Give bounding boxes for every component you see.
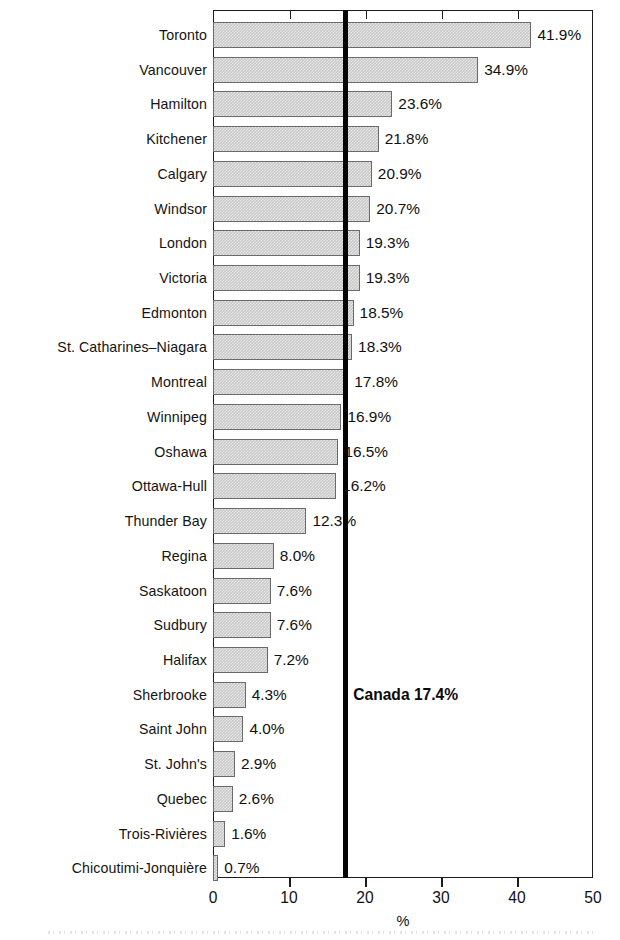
x-axis-tick (517, 878, 519, 887)
bar-value-label: 1.6% (231, 826, 266, 841)
x-axis-tick (289, 878, 291, 887)
bar (213, 334, 352, 360)
category-label: Winnipeg (0, 410, 207, 424)
bar-value-label: 8.0% (280, 548, 315, 563)
category-label: Victoria (0, 271, 207, 285)
category-label: Edmonton (0, 306, 207, 320)
x-axis-tick (365, 878, 367, 887)
category-label: St. John's (0, 757, 207, 771)
bar-value-label: 4.0% (249, 722, 284, 737)
bar (213, 126, 379, 152)
bar (213, 786, 233, 812)
bar-value-label: 2.6% (239, 791, 274, 806)
bar-row: 20.9% (213, 161, 593, 187)
canada-reference-label: Canada 17.4% (353, 687, 458, 703)
bar-row: 21.8% (213, 126, 593, 152)
category-label: Halifax (0, 653, 207, 667)
bar-value-label: 18.5% (360, 305, 404, 320)
category-label: Saint John (0, 722, 207, 736)
bar-value-label: 19.3% (366, 236, 410, 251)
bar-row: 16.2% (213, 473, 593, 499)
bar-row: 20.7% (213, 196, 593, 222)
bar-value-label: 7.6% (277, 583, 312, 598)
x-axis-tick (441, 878, 443, 887)
bar (213, 369, 348, 395)
bar-row: 7.2% (213, 647, 593, 673)
bar-value-label: 12.3% (312, 513, 356, 528)
bar-row: 16.9% (213, 404, 593, 430)
bar-row: 16.5% (213, 439, 593, 465)
bar-row: 19.3% (213, 230, 593, 256)
bar (213, 265, 360, 291)
bar (213, 578, 271, 604)
bar (213, 91, 392, 117)
page-scan-artifact (48, 931, 593, 934)
bar-row: 12.3% (213, 508, 593, 534)
bar-value-label: 16.2% (342, 479, 386, 494)
bar (213, 473, 336, 499)
category-label: London (0, 236, 207, 250)
bar (213, 612, 271, 638)
x-tick-label: 0 (209, 890, 218, 906)
bar (213, 439, 338, 465)
bar-value-label: 18.3% (358, 340, 402, 355)
bar-row: 18.3% (213, 334, 593, 360)
bar-value-label: 0.7% (224, 861, 259, 876)
bar (213, 751, 235, 777)
bar-value-label: 34.9% (484, 62, 528, 77)
x-axis-title: % (397, 914, 410, 929)
bar-row: 34.9% (213, 57, 593, 83)
x-tick-label: 40 (508, 890, 525, 906)
category-label: Trois-Rivières (0, 827, 207, 841)
bar (213, 300, 354, 326)
bar-value-label: 4.3% (252, 687, 287, 702)
bar-value-label: 19.3% (366, 270, 410, 285)
category-label: Sherbrooke (0, 688, 207, 702)
bar-row: 17.8% (213, 369, 593, 395)
bar-value-label: 20.7% (376, 201, 420, 216)
bar-value-label: 16.9% (347, 409, 391, 424)
bar (213, 716, 243, 742)
bar (213, 682, 246, 708)
category-label: Oshawa (0, 445, 207, 459)
horizontal-bar-chart: TorontoVancouverHamiltonKitchenerCalgary… (0, 0, 620, 940)
category-label: Ottawa-Hull (0, 479, 207, 493)
x-axis: % 01020304050 (213, 878, 593, 938)
bar (213, 543, 274, 569)
bar-value-label: 7.2% (274, 652, 309, 667)
bar-value-label: 23.6% (398, 97, 442, 112)
canada-reference-line (343, 10, 348, 878)
bar-row: 4.0% (213, 716, 593, 742)
bar-row: 18.5% (213, 300, 593, 326)
x-tick-label: 30 (432, 890, 449, 906)
category-label: Thunder Bay (0, 514, 207, 528)
bar-row: 8.0% (213, 543, 593, 569)
x-tick-label: 50 (584, 890, 601, 906)
bar-value-label: 2.9% (241, 756, 276, 771)
x-tick-label: 20 (356, 890, 373, 906)
bar-row: 1.6% (213, 821, 593, 847)
bar-value-label: 16.5% (344, 444, 388, 459)
category-label: Calgary (0, 167, 207, 181)
bar-row: 19.3% (213, 265, 593, 291)
bar-row: 41.9% (213, 22, 593, 48)
category-label: Toronto (0, 28, 207, 42)
bar (213, 22, 531, 48)
category-label: Quebec (0, 792, 207, 806)
x-tick-label: 10 (280, 890, 297, 906)
bar (213, 161, 372, 187)
bar (213, 230, 360, 256)
category-label: Chicoutimi-Jonquière (0, 861, 207, 875)
category-label: Hamilton (0, 97, 207, 111)
category-label: Montreal (0, 375, 207, 389)
bar (213, 404, 341, 430)
category-label: Vancouver (0, 63, 207, 77)
bar-row: 23.6% (213, 91, 593, 117)
bar (213, 647, 268, 673)
category-label: Sudbury (0, 618, 207, 632)
category-label: St. Catharines–Niagara (0, 340, 207, 354)
bars-layer: 41.9%34.9%23.6%21.8%20.9%20.7%19.3%19.3%… (213, 10, 593, 878)
bar-row: 7.6% (213, 612, 593, 638)
bar-row: 2.6% (213, 786, 593, 812)
bar-value-label: 21.8% (385, 131, 429, 146)
